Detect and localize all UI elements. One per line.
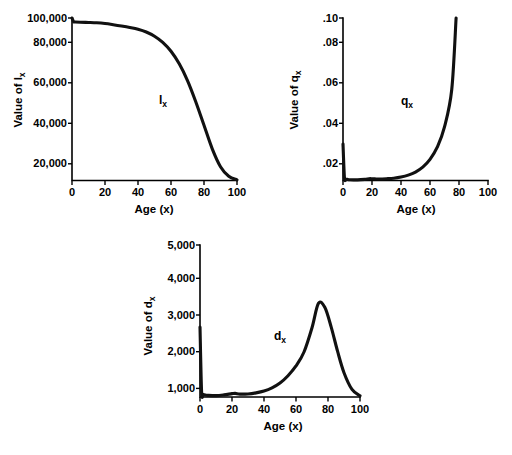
- lx-ytick-label-3: 80,000: [33, 36, 67, 48]
- lx-x-axis-title: Age (x): [135, 203, 174, 215]
- dx-xtick-label-5: 100: [351, 403, 369, 415]
- dx-y-axis-title-prefix: Value of: [142, 308, 154, 355]
- qx-axes: [343, 18, 488, 181]
- lx-xtick-label-3: 60: [165, 186, 177, 198]
- dx-ytick-label-3: 4,000: [167, 272, 195, 284]
- dx-xtick-label-3: 60: [290, 403, 302, 415]
- qx-ytick-label-4: .10: [323, 12, 338, 24]
- lx-y-axis-title: Value of lx: [12, 72, 27, 128]
- lx-y-axis-title-prefix: Value of: [12, 80, 24, 127]
- qx-xtick-label-0: 0: [340, 186, 346, 198]
- dx-chart-panel: Value of dx 1,000 2,000 3,000 4,000 5,00…: [128, 228, 384, 455]
- lx-xtick-label-4: 80: [198, 186, 210, 198]
- qx-xtick-label-3: 60: [424, 186, 436, 198]
- dx-xtick-label-0: 0: [197, 403, 203, 415]
- qx-curve-annotation-sub: x: [408, 100, 413, 110]
- qx-chart-svg: Value of qx .02 .04 .06 .08 .10 0 20 40 …: [256, 0, 512, 228]
- dx-x-axis-title: Age (x): [264, 420, 303, 432]
- dx-ytick-label-4: 5,000: [167, 239, 195, 251]
- qx-x-axis-title: Age (x): [397, 203, 436, 215]
- dx-y-axis-title-symbol: d: [142, 301, 154, 308]
- dx-xtick-label-2: 40: [258, 403, 270, 415]
- lx-xtick-label-5: 100: [228, 186, 246, 198]
- lx-ytick-label-4: 100,000: [27, 12, 67, 24]
- qx-ytick-label-3: .08: [323, 36, 338, 48]
- dx-axes: [200, 245, 360, 397]
- lx-xtick-label-2: 40: [132, 186, 144, 198]
- lx-ytick-label-0: 20,000: [33, 157, 67, 169]
- svg-text:Value of qx: Value of qx: [288, 70, 303, 129]
- qx-xtick-label-4: 80: [453, 186, 465, 198]
- life-table-figure: Value of lx 20,000 40,000 60,000 80,000 …: [0, 0, 512, 455]
- lx-chart-svg: Value of lx 20,000 40,000 60,000 80,000 …: [0, 0, 256, 228]
- dx-curve-annotation-symbol: d: [274, 329, 281, 343]
- svg-text:Value of lx: Value of lx: [12, 72, 27, 128]
- dx-chart-svg: Value of dx 1,000 2,000 3,000 4,000 5,00…: [128, 228, 384, 455]
- lx-axes: [72, 18, 237, 181]
- dx-xtick-label-1: 20: [226, 403, 238, 415]
- lx-curve: [72, 18, 237, 180]
- dx-curve-annotation: dx: [274, 329, 286, 345]
- lx-ytick-label-1: 40,000: [33, 117, 67, 129]
- qx-xtick-label-1: 20: [366, 186, 378, 198]
- qx-y-axis-title-prefix: Value of: [288, 82, 300, 129]
- dx-curve-annotation-sub: x: [281, 335, 286, 345]
- lx-curve-annotation-sub: x: [162, 99, 167, 109]
- qx-y-axis-title: Value of qx: [288, 70, 303, 129]
- qx-curve-annotation: qx: [401, 94, 413, 110]
- lx-ytick-label-2: 60,000: [33, 76, 67, 88]
- dx-xtick-label-4: 80: [322, 403, 334, 415]
- qx-chart-panel: Value of qx .02 .04 .06 .08 .10 0 20 40 …: [256, 0, 512, 228]
- dx-y-axis-title-sub: x: [147, 296, 157, 301]
- dx-ytick-label-0: 1,000: [167, 382, 195, 394]
- qx-xtick-label-5: 100: [479, 186, 497, 198]
- lx-chart-panel: Value of lx 20,000 40,000 60,000 80,000 …: [0, 0, 256, 228]
- qx-ytick-label-2: .06: [323, 76, 338, 88]
- lx-y-axis-title-sub: x: [17, 72, 27, 77]
- dx-y-axis-title: Value of dx: [142, 296, 157, 355]
- qx-curve-annotation-symbol: q: [401, 94, 408, 108]
- dx-curve: [200, 302, 360, 397]
- dx-ytick-label-2: 3,000: [167, 309, 195, 321]
- qx-ytick-label-1: .04: [323, 117, 339, 129]
- qx-curve: [343, 18, 456, 181]
- lx-xtick-label-1: 20: [99, 186, 111, 198]
- qx-y-axis-title-symbol: q: [288, 75, 300, 82]
- svg-text:Value of dx: Value of dx: [142, 296, 157, 355]
- qx-ytick-label-0: .02: [323, 157, 338, 169]
- qx-xtick-label-2: 40: [395, 186, 407, 198]
- qx-y-axis-title-sub: x: [293, 70, 303, 75]
- lx-xtick-label-0: 0: [69, 186, 75, 198]
- dx-ytick-label-1: 2,000: [167, 345, 195, 357]
- lx-curve-annotation: lx: [159, 93, 167, 109]
